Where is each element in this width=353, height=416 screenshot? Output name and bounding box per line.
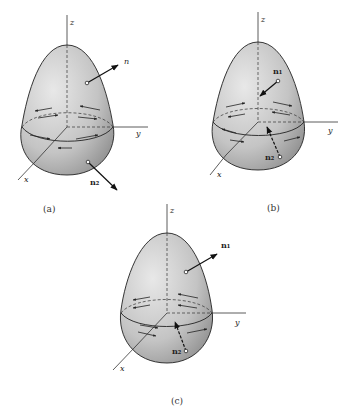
figure-caption: (b) xyxy=(267,203,280,213)
egg-surface xyxy=(120,233,212,363)
figure-canvas: z y x n n₂ (a) z y x n₁ n₂ xyxy=(0,0,353,416)
normal-label: n xyxy=(124,57,129,66)
normal-base-point xyxy=(278,155,282,159)
figure-b: z y x n₁ n₂ (b) xyxy=(210,12,338,213)
y-axis-label: y xyxy=(327,126,333,135)
normal-label: n₁ xyxy=(221,240,230,250)
figure-caption: (a) xyxy=(43,204,55,214)
normal-base-point xyxy=(184,349,188,353)
normal-label: n₂ xyxy=(265,152,275,162)
normal-label: n₂ xyxy=(90,177,100,187)
x-axis-label: x xyxy=(120,364,125,373)
normal-label: n₂ xyxy=(172,346,182,356)
figure-caption: (c) xyxy=(171,396,183,406)
x-axis-label: x xyxy=(217,170,222,179)
normal-base-point xyxy=(85,81,89,85)
y-axis-label: y xyxy=(135,129,141,138)
z-axis-label: z xyxy=(260,15,266,24)
normal-label: n₁ xyxy=(273,66,282,76)
normal-base-point xyxy=(86,160,90,164)
normal-base-point xyxy=(184,270,188,274)
normal-base-point xyxy=(276,79,280,83)
y-axis-label: y xyxy=(234,318,240,327)
z-axis-label: z xyxy=(69,18,75,27)
z-axis-label: z xyxy=(169,206,175,215)
x-axis-label: x xyxy=(24,175,29,184)
figure-a: z y x n n₂ (a) xyxy=(18,15,148,214)
figure-c: z y x n₁ n₂ (c) xyxy=(113,204,246,406)
